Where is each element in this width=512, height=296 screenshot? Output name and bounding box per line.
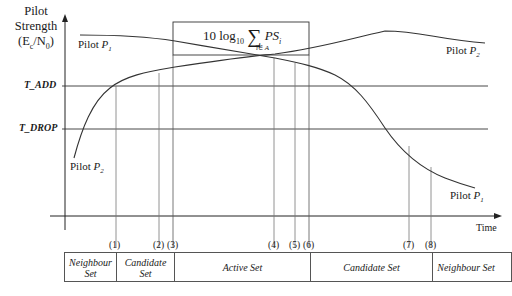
set-neighbour-1: NeighbourSet: [65, 253, 117, 282]
y-label-close: ): [50, 34, 54, 48]
marker-2: (2): [153, 240, 164, 250]
formula-sum-index: i∈ A: [256, 44, 269, 52]
marker-7: (7): [403, 240, 414, 250]
label-sub: 1: [108, 45, 112, 53]
y-label-ec: (E: [18, 34, 30, 48]
label-sub: 2: [476, 51, 480, 59]
x-axis-label: Time: [476, 222, 497, 233]
formula-term-sub: i: [279, 37, 281, 46]
pilot-p2-right-label: Pilot P2: [446, 44, 480, 59]
pilot-p2-curve: [74, 31, 485, 158]
formula-prefix: 10 log: [203, 28, 236, 43]
marker-6: (6): [303, 240, 314, 250]
y-label-n: /N: [33, 34, 46, 48]
pilot-p1-curve: [80, 35, 475, 188]
label-text: Pilot: [70, 160, 94, 172]
set-label: CandidateSet: [125, 257, 167, 279]
set-neighbour-2: Neighbour Set: [433, 253, 499, 282]
label-text: Pilot: [450, 189, 474, 201]
marker-8: (8): [425, 240, 436, 250]
set-label-line-2: Set: [139, 268, 151, 279]
pilot-p1-right-label: Pilot P1: [450, 189, 484, 204]
set-candidate-1: CandidateSet: [117, 253, 175, 282]
label-text: Pilot: [78, 38, 102, 50]
set-active: Active Set: [175, 253, 311, 282]
set-label: Neighbour Set: [437, 262, 495, 273]
set-label: NeighbourSet: [69, 257, 112, 279]
set-label: Candidate Set: [343, 262, 399, 273]
set-membership-bar: NeighbourSet CandidateSet Active Set Can…: [64, 252, 512, 282]
set-candidate-2: Candidate Set: [311, 253, 433, 282]
y-label-line-1: Pilot: [6, 4, 66, 19]
t-drop-label: T_DROP: [19, 122, 57, 133]
y-label-line-3: (Ec/N0): [6, 34, 66, 54]
set-label-line-1: Candidate: [125, 257, 167, 268]
set-label-line-2: Set: [84, 268, 96, 279]
x-axis-arrow-icon: [494, 213, 502, 219]
label-sub: 2: [100, 167, 104, 175]
t-add-label: T_ADD: [24, 79, 56, 90]
formula-expression: 10 log10 ∑ PSi: [203, 25, 281, 48]
marker-5: (5): [289, 240, 300, 250]
pilot-p2-left-label: Pilot P2: [70, 160, 104, 175]
pilot-p1-left-label: Pilot P1: [78, 38, 112, 53]
label-sub: 1: [480, 196, 484, 204]
formula-log-base: 10: [236, 37, 244, 46]
set-label-line-1: Neighbour: [69, 257, 112, 268]
label-text: Pilot: [446, 44, 470, 56]
set-label: Active Set: [223, 262, 263, 273]
y-axis-label: Pilot Strength (Ec/N0): [6, 4, 66, 54]
formula-term: PS: [265, 28, 279, 43]
y-label-line-2: Strength: [6, 19, 66, 34]
marker-4: (4): [268, 240, 279, 250]
marker-3: (3): [167, 240, 178, 250]
marker-1: (1): [109, 240, 120, 250]
